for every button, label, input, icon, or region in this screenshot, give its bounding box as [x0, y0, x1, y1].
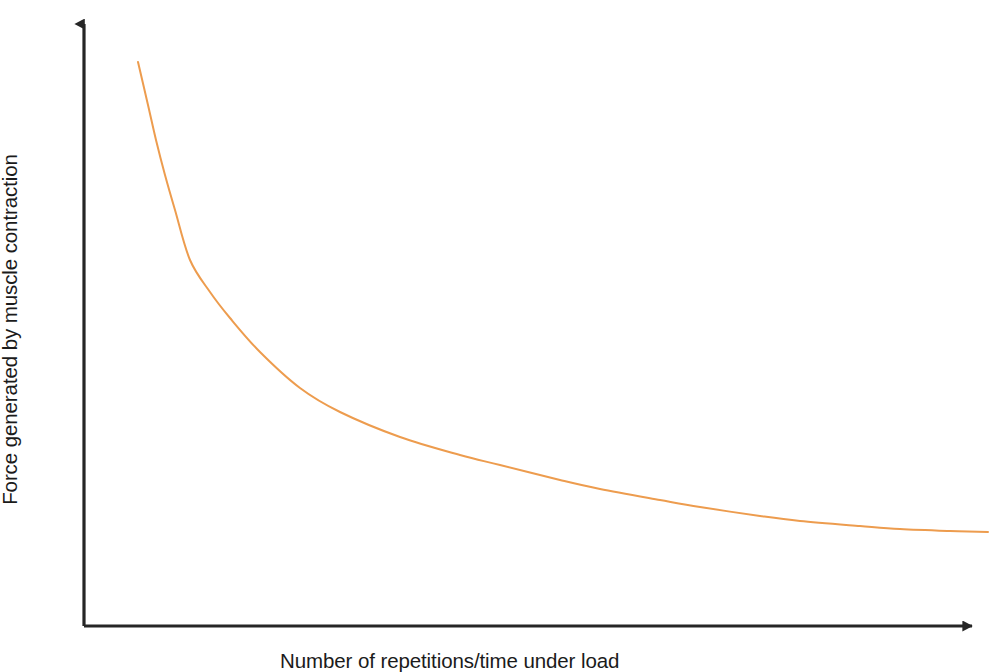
y-axis-label-text: Force generated by muscle contraction: [0, 154, 21, 530]
y-axis-label: Force generated by muscle contraction: [0, 154, 21, 530]
x-axis-label-text: Number of repetitions/time under load: [280, 649, 619, 672]
x-axis-label: Number of repetitions/time under load: [280, 651, 619, 672]
force-decay-curve: [138, 62, 988, 532]
